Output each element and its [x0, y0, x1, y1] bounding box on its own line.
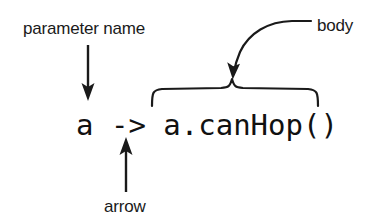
body-label: body [317, 16, 353, 36]
arrow-label-up-arrow-icon [120, 137, 133, 192]
lambda-expression-code: a -> a.canHop() [76, 108, 338, 142]
body-curved-arrow-icon [227, 21, 311, 80]
parameter-name-label: parameter name [23, 19, 145, 39]
arrow-label: arrow [104, 197, 146, 217]
parameter-name-down-arrow-icon [82, 45, 95, 101]
lambda-anatomy-diagram: parameter name body arrow a -> a.canHop(… [0, 0, 371, 224]
body-curly-brace-icon [152, 79, 318, 106]
